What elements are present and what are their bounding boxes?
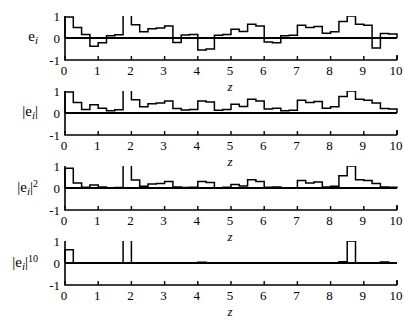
panel-abs-ei-sq-xtick-7: 7 [293,214,300,227]
panel-ei-ytick-2: -1 [49,54,60,67]
panel-ei: ei10-1012345678910z [0,6,404,81]
panel-abs-ei-xtick-1: 1 [94,139,101,152]
panel-abs-ei-y-ticklabels: 10-1 [38,91,60,135]
panel-abs-ei-sq-xtick-0: 0 [61,214,68,227]
panel-abs-ei-sq-ylabel-text: |ei|2 [17,178,38,197]
panel-ei-xtick-9: 9 [360,64,367,77]
panel-abs-ei-xtick-5: 5 [227,139,234,152]
panel-abs-ei-xtick-6: 6 [260,139,267,152]
panel-abs-ei-ylabel-main: |e [22,103,32,119]
panel-ei-xtick-4: 4 [194,64,201,77]
panel-ei-xtick-8: 8 [326,64,333,77]
panel-abs-ei-10-ylabel-exponent: 10 [28,253,38,264]
panel-abs-ei-xtick-8: 8 [326,139,333,152]
panel-ei-x-ticklabels: 012345678910 [64,64,396,80]
panel-abs-ei-10-xtick-6: 6 [260,289,267,302]
panel-ei-xtick-7: 7 [293,64,300,77]
panel-abs-ei-10-ytick-1: 0 [54,257,61,270]
panel-abs-ei-sq-ytick-2: -1 [49,204,60,217]
panel-ei-y-ticklabels: 10-1 [38,16,60,60]
panel-abs-ei-10-xtick-9: 9 [360,289,367,302]
panel-abs-ei-10-xtick-4: 4 [194,289,201,302]
panel-ei-ylabel-text: ei [28,28,38,46]
panel-abs-ei-10-xtick-2: 2 [127,289,134,302]
panel-abs-ei-10-xtick-5: 5 [227,289,234,302]
panel-abs-ei-10-ylabel: |ei|10 [0,240,38,284]
panel-abs-ei-xtick-7: 7 [293,139,300,152]
panel-abs-ei-sq-y-ticklabels: 10-1 [38,166,60,210]
panel-ei-xtick-10: 10 [390,64,403,77]
panel-abs-ei-ylabel: |ei| [0,90,38,134]
panel-abs-ei-sq-ylabel: |ei|2 [0,165,38,209]
panel-abs-ei-10-y-ticklabels: 10-1 [38,241,60,285]
panel-abs-ei-xtick-3: 3 [160,139,167,152]
panel-ei-ylabel: ei [0,15,38,59]
panel-abs-ei-sq-xtick-4: 4 [194,214,201,227]
panel-abs-ei-sq-x-ticklabels: 012345678910 [64,214,396,230]
panel-abs-ei-xtick-9: 9 [360,139,367,152]
panel-abs-ei-sq: |ei|210-1012345678910z [0,156,404,231]
panel-abs-ei-histogram-outline [65,91,397,113]
panel-abs-ei-10: |ei|1010-1012345678910z [0,231,404,306]
panel-ei-ytick-0: 1 [54,10,61,23]
panel-abs-ei-xtick-10: 10 [390,139,403,152]
panel-abs-ei-sq-xtick-2: 2 [127,214,134,227]
panel-abs-ei-10-xtick-8: 8 [326,289,333,302]
panel-abs-ei-sq-xtick-9: 9 [360,214,367,227]
panel-abs-ei-sq-ytick-1: 0 [54,182,61,195]
panel-abs-ei-sq-xtick-6: 6 [260,214,267,227]
panel-ei-ylabel-main: e [28,28,35,44]
panel-ei-xtick-3: 3 [160,64,167,77]
panel-ei-xtick-2: 2 [127,64,134,77]
panel-abs-ei-10-xtick-1: 1 [94,289,101,302]
panel-ei-xtick-1: 1 [94,64,101,77]
panel-abs-ei-xtick-2: 2 [127,139,134,152]
panel-abs-ei-sq-xtick-10: 10 [390,214,403,227]
panel-abs-ei-10-x-ticklabels: 012345678910 [64,289,396,305]
panel-abs-ei: |ei|10-1012345678910z [0,81,404,156]
panel-abs-ei-x-ticklabels: 012345678910 [64,139,396,155]
panel-abs-ei-sq-ylabel-main: |e [17,179,27,195]
panel-abs-ei-sq-ytick-0: 1 [54,160,61,173]
panel-abs-ei-sq-xtick-5: 5 [227,214,234,227]
panel-abs-ei-10-xtick-7: 7 [293,289,300,302]
panel-abs-ei-10-histogram-outline [65,241,397,263]
panel-ei-histogram-outline [65,16,397,50]
panel-abs-ei-xtick-4: 4 [194,139,201,152]
panel-ei-xtick-6: 6 [260,64,267,77]
panel-abs-ei-10-xtick-3: 3 [160,289,167,302]
panel-ei-xtick-5: 5 [227,64,234,77]
panel-abs-ei-ylabel-text: |ei| [22,103,38,121]
panel-abs-ei-10-ylabel-text: |ei|10 [12,253,38,272]
panel-abs-ei-sq-xtick-3: 3 [160,214,167,227]
panel-abs-ei-ytick-1: 0 [54,107,61,120]
panel-abs-ei-sq-histogram-outline [65,166,397,188]
panel-abs-ei-10-ylabel-main: |e [12,254,22,270]
panel-abs-ei-10-xaxis-title: z [227,304,232,320]
panel-abs-ei-10-xtick-0: 0 [61,289,68,302]
panel-ei-ytick-1: 0 [54,32,61,45]
panel-abs-ei-sq-xtick-8: 8 [326,214,333,227]
panel-abs-ei-10-ytick-0: 1 [54,235,61,248]
panel-abs-ei-10-xtick-10: 10 [390,289,403,302]
panel-abs-ei-sq-xtick-1: 1 [94,214,101,227]
panel-ei-xtick-0: 0 [61,64,68,77]
panel-abs-ei-10-ytick-2: -1 [49,279,60,292]
panel-abs-ei-ytick-0: 1 [54,85,61,98]
panel-abs-ei-xtick-0: 0 [61,139,68,152]
panel-abs-ei-ytick-2: -1 [49,129,60,142]
